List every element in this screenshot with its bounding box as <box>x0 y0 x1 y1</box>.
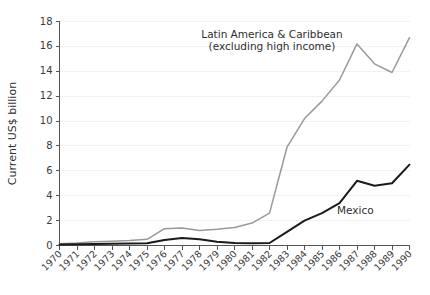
chart-container: 024681012141618 197019711972197319741975… <box>0 0 430 295</box>
x-tick-label-1990: 1990 <box>389 248 414 273</box>
latin-america-label-line-1: (excluding high income) <box>209 40 336 52</box>
chart-annotations: Latin America & Caribbean(excluding high… <box>201 28 373 216</box>
y-tick-label-10: 10 <box>40 115 53 126</box>
y-tick-label-2: 2 <box>46 215 52 226</box>
y-tick-label-14: 14 <box>40 65 53 76</box>
y-tick-label-8: 8 <box>46 140 52 151</box>
y-tick-label-12: 12 <box>40 90 53 101</box>
mexico-label-line-0: Mexico <box>337 204 374 216</box>
y-tick-label-18: 18 <box>40 16 53 27</box>
y-axis-title: Current US$ billion <box>6 82 19 185</box>
y-tick-label-16: 16 <box>40 40 53 51</box>
x-axis-ticks: 1970197119721973197419751976197719781979… <box>39 246 414 274</box>
y-tick-label-4: 4 <box>46 190 52 201</box>
line-chart: 024681012141618 197019711972197319741975… <box>0 0 430 295</box>
y-axis-ticks: 024681012141618 <box>40 16 60 251</box>
y-tick-label-6: 6 <box>46 165 52 176</box>
y-tick-label-0: 0 <box>46 240 52 251</box>
latin-america-label-line-0: Latin America & Caribbean <box>201 28 342 40</box>
